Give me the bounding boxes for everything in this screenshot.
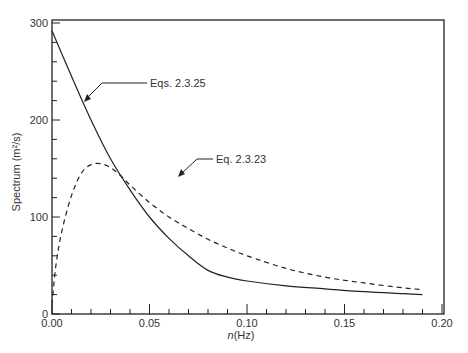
y-tick-label: 300 (30, 17, 48, 29)
annotation-eq-2-3-23: Eq. 2.3.23 (178, 153, 266, 177)
annotation-label-eqs-2-3-25: Eqs. 2.3.25 (150, 77, 206, 89)
spectrum-chart: 0100200300 0.000.050.100.150.20 Eqs. 2.3… (0, 0, 468, 353)
x-axis-label: n(Hz) (228, 329, 255, 341)
x-tick-label: 0.05 (139, 317, 160, 329)
x-tick-label: 0.10 (236, 317, 257, 329)
x-tick-label: 0.20 (431, 317, 452, 329)
x-axis: 0.000.050.100.150.20 (41, 304, 452, 329)
y-axis: 0100200300 (30, 17, 60, 320)
series-group (52, 31, 423, 305)
series-line-eq-2-3-23 (52, 163, 423, 304)
annotation-eqs-2-3-25: Eqs. 2.3.25 (84, 77, 206, 102)
plot-frame (52, 20, 444, 314)
y-tick-label: 200 (30, 114, 48, 126)
y-tick-label: 100 (30, 211, 48, 223)
x-tick-label: 0.00 (41, 317, 62, 329)
annotation-label-eq-2-3-23: Eq. 2.3.23 (216, 153, 266, 165)
x-tick-label: 0.15 (334, 317, 355, 329)
y-axis-label: Spectrum (m²/s) (10, 133, 22, 212)
